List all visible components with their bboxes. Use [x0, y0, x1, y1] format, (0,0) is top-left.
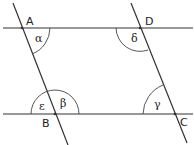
- angle-label-epsilon: ε: [39, 101, 45, 112]
- point-label-b: B: [42, 118, 50, 129]
- point-c-dot: [174, 113, 177, 116]
- left-transversal: [13, 3, 68, 145]
- right-transversal: [131, 3, 187, 143]
- angle-label-beta: β: [60, 98, 66, 109]
- angle-label-gamma: γ: [154, 99, 161, 110]
- point-a-dot: [21, 27, 24, 30]
- angle-label-alpha: α: [35, 33, 42, 44]
- point-b-dot: [54, 113, 57, 116]
- angle-label-delta: δ: [131, 33, 138, 44]
- point-label-d: D: [145, 16, 153, 27]
- point-label-a: A: [26, 16, 34, 27]
- point-d-dot: [139, 27, 142, 30]
- point-label-c: C: [180, 117, 188, 128]
